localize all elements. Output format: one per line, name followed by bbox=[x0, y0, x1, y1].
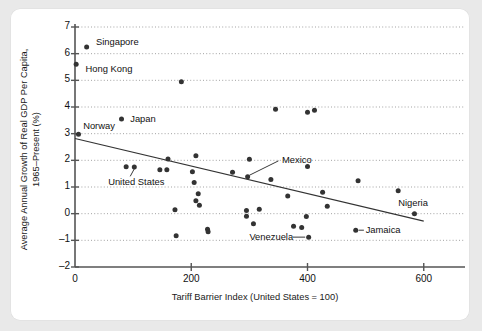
data-point bbox=[291, 224, 296, 229]
annotation-united-states: United States bbox=[108, 176, 164, 187]
data-point bbox=[193, 153, 198, 158]
data-point bbox=[285, 194, 290, 199]
data-point bbox=[179, 79, 184, 84]
scatter-plot-figure: Average Annual Growth of Real GDP Per Ca… bbox=[0, 0, 482, 331]
x-axis-label: Tariff Barrier Index (United States = 10… bbox=[75, 292, 435, 302]
data-point bbox=[164, 167, 169, 172]
data-point bbox=[356, 178, 361, 183]
data-point bbox=[273, 107, 278, 112]
data-point bbox=[157, 167, 162, 172]
data-point-mexico bbox=[245, 174, 250, 179]
y-tick-label--1: –1 bbox=[53, 233, 70, 244]
data-point-venezuela bbox=[306, 235, 311, 240]
y-tick-label--2: –2 bbox=[53, 260, 70, 271]
annotation-norway: Norway bbox=[83, 120, 115, 131]
data-point bbox=[166, 157, 171, 162]
annotation-mexico: Mexico bbox=[282, 154, 312, 165]
data-point-hong-kong bbox=[74, 62, 79, 67]
data-point bbox=[312, 108, 317, 113]
data-point bbox=[196, 191, 201, 196]
data-point bbox=[257, 207, 262, 212]
data-point bbox=[190, 169, 195, 174]
y-tick-label-4: 4 bbox=[53, 100, 70, 111]
chart-page: Average Annual Growth of Real GDP Per Ca… bbox=[0, 0, 482, 331]
gridlines-group bbox=[75, 27, 465, 240]
y-tick-label-2: 2 bbox=[53, 153, 70, 164]
x-tick-label-400: 400 bbox=[293, 273, 323, 284]
data-point bbox=[197, 203, 202, 208]
data-point-japan bbox=[119, 117, 124, 122]
data-point bbox=[230, 170, 235, 175]
mexico-leader bbox=[249, 161, 278, 175]
annotation-venezuela: Venezuela bbox=[249, 231, 293, 242]
data-point bbox=[251, 221, 256, 226]
data-point bbox=[320, 190, 325, 195]
y-tick-label-3: 3 bbox=[53, 127, 70, 138]
annotation-jamaica: Jamaica bbox=[366, 224, 401, 235]
y-tick-label-0: 0 bbox=[53, 207, 70, 218]
y-axis-label-line1: Average Annual Growth of Real GDP Per Ca… bbox=[20, 48, 32, 250]
data-point bbox=[124, 164, 129, 169]
data-point bbox=[174, 233, 179, 238]
annotation-japan: Japan bbox=[130, 113, 156, 124]
y-tick-label-7: 7 bbox=[53, 20, 70, 31]
annotation-hong-kong: Hong Kong bbox=[85, 63, 132, 74]
data-point bbox=[305, 110, 310, 115]
data-point bbox=[244, 208, 249, 213]
data-point-united-states bbox=[132, 165, 137, 170]
data-point bbox=[247, 157, 252, 162]
x-tick-label-200: 200 bbox=[176, 273, 206, 284]
data-point bbox=[304, 214, 309, 219]
data-point bbox=[244, 214, 249, 219]
x-tick-label-0: 0 bbox=[60, 273, 90, 284]
data-point-jamaica bbox=[353, 228, 358, 233]
annotation-nigeria: Nigeria bbox=[398, 197, 428, 208]
y-tick-label-5: 5 bbox=[53, 73, 70, 84]
y-axis-label-line2: 1965–Present (%) bbox=[31, 48, 43, 250]
data-point bbox=[268, 177, 273, 182]
data-point-singapore bbox=[84, 45, 89, 50]
y-axis-label: Average Annual Growth of Real GDP Per Ca… bbox=[16, 14, 46, 284]
y-tick-label-1: 1 bbox=[53, 180, 70, 191]
y-tick-label-6: 6 bbox=[53, 47, 70, 58]
data-point bbox=[325, 204, 330, 209]
data-point bbox=[396, 188, 401, 193]
data-point bbox=[193, 198, 198, 203]
data-point bbox=[206, 229, 211, 234]
annotation-singapore: Singapore bbox=[96, 36, 139, 47]
x-tick-label-600: 600 bbox=[409, 273, 439, 284]
data-point bbox=[172, 207, 177, 212]
data-point bbox=[192, 180, 197, 185]
data-point-nigeria bbox=[412, 211, 417, 216]
data-point bbox=[299, 225, 304, 230]
data-point-norway bbox=[76, 132, 81, 137]
